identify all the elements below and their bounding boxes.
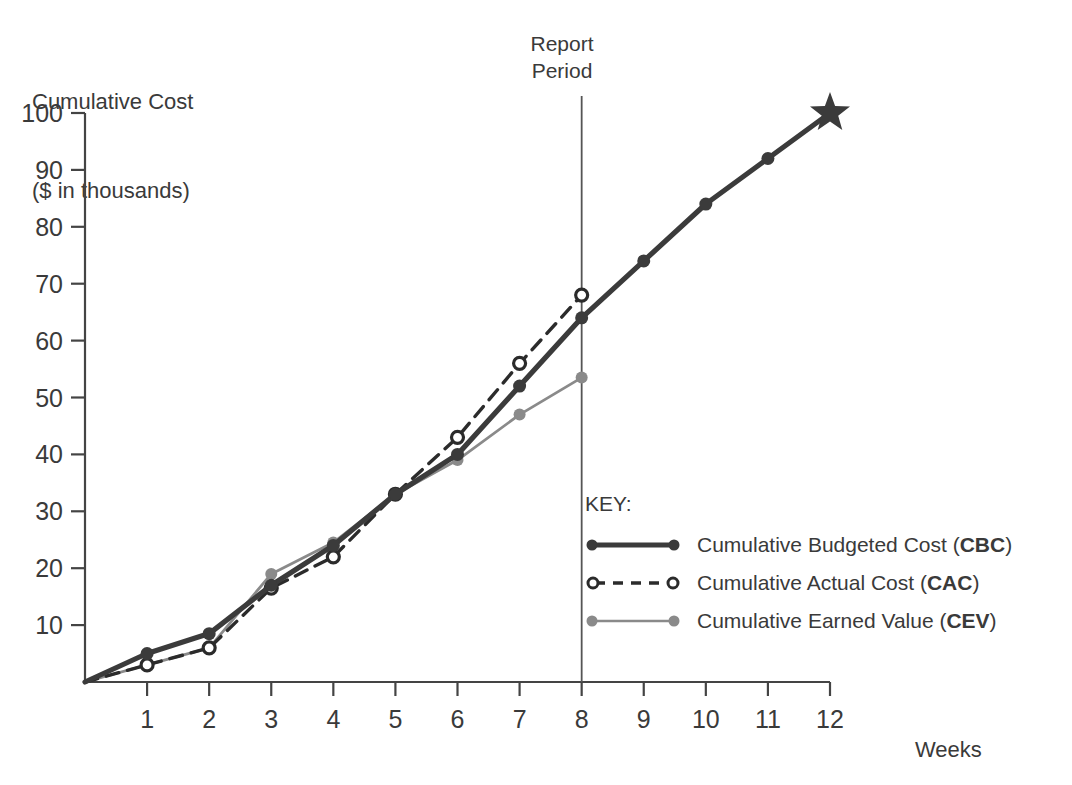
- x-tick-label: 2: [202, 705, 216, 733]
- x-axis-ticks: 123456789101112: [140, 682, 844, 733]
- legend-item-cev[interactable]: Cumulative Earned Value (CEV): [585, 602, 1055, 640]
- x-tick-label: 8: [575, 705, 589, 733]
- data-point-cac: [141, 659, 153, 671]
- x-tick-label: 10: [692, 705, 720, 733]
- data-point-cbc: [513, 380, 526, 393]
- legend-swatch-cac: [585, 572, 681, 594]
- series-cev: [85, 372, 588, 682]
- x-tick-label: 11: [755, 705, 781, 733]
- series-cac: [85, 289, 588, 682]
- data-point-cac: [327, 551, 339, 563]
- data-point-cbc: [203, 627, 216, 640]
- x-tick-label: 7: [513, 705, 527, 733]
- data-point-cbc: [761, 152, 774, 165]
- data-point-cac: [203, 642, 215, 654]
- x-tick-label: 9: [637, 705, 651, 733]
- y-tick-label: 80: [35, 213, 63, 241]
- series-line-cev: [85, 378, 582, 682]
- legend-label-cbc: Cumulative Budgeted Cost (CBC): [697, 533, 1012, 557]
- data-point-cbc: [327, 539, 340, 552]
- y-tick-label: 30: [35, 497, 63, 525]
- data-point-cev: [576, 372, 588, 384]
- x-tick-label: 5: [388, 705, 402, 733]
- data-point-cbc: [265, 579, 278, 592]
- legend-label-cac-abbr: CAC: [927, 571, 973, 594]
- data-point-cac: [576, 289, 588, 301]
- legend-label-cac: Cumulative Actual Cost (CAC): [697, 571, 979, 595]
- y-axis-ticks: 102030405060708090100: [21, 99, 85, 639]
- y-tick-label: 20: [35, 554, 63, 582]
- legend: KEY: Cumulative Budgeted Cost (CBC): [585, 492, 1055, 640]
- x-tick-label: 6: [451, 705, 465, 733]
- chart-page: Cumulative Cost ($ in thousands) Report …: [0, 0, 1072, 785]
- legend-title: KEY:: [585, 492, 1055, 516]
- y-tick-label: 50: [35, 384, 63, 412]
- y-tick-label: 90: [35, 156, 63, 184]
- y-tick-label: 70: [35, 270, 63, 298]
- legend-item-cbc[interactable]: Cumulative Budgeted Cost (CBC): [585, 526, 1055, 564]
- y-tick-label: 100: [21, 99, 63, 127]
- legend-label-cbc-abbr: CBC: [960, 533, 1006, 556]
- legend-label-cev-text: Cumulative Earned Value: [697, 609, 934, 632]
- data-point-cbc: [575, 311, 588, 324]
- legend-label-cev: Cumulative Earned Value (CEV): [697, 609, 997, 633]
- data-point-cbc: [141, 647, 154, 660]
- legend-swatch-cbc: [585, 534, 681, 556]
- data-point-cev: [265, 568, 277, 580]
- legend-label-cbc-text: Cumulative Budgeted Cost: [697, 533, 947, 556]
- data-point-cev: [514, 409, 526, 421]
- x-tick-label: 4: [326, 705, 340, 733]
- x-tick-label: 3: [264, 705, 278, 733]
- series-line-cac: [85, 295, 582, 682]
- y-tick-label: 40: [35, 440, 63, 468]
- x-tick-label: 1: [140, 705, 154, 733]
- data-point-cbc: [637, 254, 650, 267]
- data-point-cbc: [699, 198, 712, 211]
- data-point-cbc: [389, 488, 402, 501]
- data-point-cac: [514, 357, 526, 369]
- chart-plot-area: 102030405060708090100 123456789101112: [0, 0, 1072, 785]
- x-tick-label: 12: [816, 705, 844, 733]
- legend-label-cev-abbr: CEV: [946, 609, 989, 632]
- y-tick-label: 10: [35, 611, 63, 639]
- legend-label-cac-text: Cumulative Actual Cost: [697, 571, 914, 594]
- data-point-cac: [452, 431, 464, 443]
- data-point-cbc: [451, 448, 464, 461]
- legend-swatch-cev: [585, 610, 681, 632]
- y-tick-label: 60: [35, 327, 63, 355]
- legend-item-cac[interactable]: Cumulative Actual Cost (CAC): [585, 564, 1055, 602]
